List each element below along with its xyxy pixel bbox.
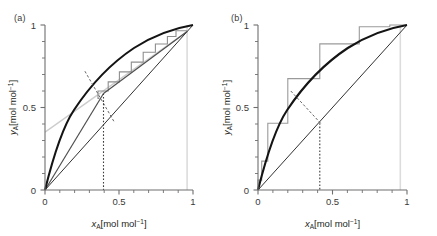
diagonal-45-line bbox=[258, 25, 407, 190]
panel-b: (b) bbox=[219, 0, 437, 236]
panel-b-xlabel-unit: [mol mol bbox=[314, 218, 350, 229]
panel-a-xlabel-unit: [mol mol bbox=[101, 218, 137, 229]
panel-b-ylabel-close: ] bbox=[221, 80, 232, 83]
panel-a-ylabel-close: ] bbox=[7, 80, 18, 83]
panel-a-x-axis-title: xA[mol mol−1] bbox=[90, 218, 146, 230]
figure-container: (a) bbox=[0, 0, 437, 236]
panel-b-xtick-05: 0.5 bbox=[326, 196, 339, 207]
panel-b-x-axis-title: xA[mol mol−1] bbox=[304, 218, 360, 230]
panel-b-y-axis-title: yA[mol mol−1] bbox=[221, 80, 233, 136]
panel-a-xtick-05: 0.5 bbox=[112, 196, 125, 207]
panel-a-ylabel-unit: [mol mol bbox=[7, 90, 18, 126]
y-axis-major-ticks bbox=[254, 25, 259, 190]
panel-b-ytick-1: 1 bbox=[244, 20, 249, 31]
panel-a-y-axis-title: yA[mol mol−1] bbox=[7, 80, 19, 136]
panel-b-plot: 0 0.5 1 0 0.5 1 xA[mol mol−1] yA[mol mol… bbox=[219, 0, 437, 236]
panel-b-xtick-1: 1 bbox=[404, 196, 409, 207]
y-axis-major-ticks bbox=[41, 25, 46, 190]
x-axis-major-ticks bbox=[258, 190, 407, 195]
panel-a-svg: 0 0.5 1 0 0.5 1 xA[mol mol−1] yA[mol mol… bbox=[0, 0, 218, 236]
panel-b-ylabel-unit: [mol mol bbox=[221, 90, 232, 126]
panel-b-ytick-05: 0.5 bbox=[236, 102, 249, 113]
diagonal-45-line bbox=[45, 25, 193, 190]
panel-a-xlabel-close: ] bbox=[144, 218, 147, 229]
panel-b-ytick-0: 0 bbox=[244, 185, 249, 196]
panel-b-xlabel-close: ] bbox=[357, 218, 360, 229]
panel-b-svg: 0 0.5 1 0 0.5 1 xA[mol mol−1] yA[mol mol… bbox=[219, 0, 437, 236]
panel-a: (a) bbox=[0, 0, 218, 236]
panel-a-ytick-0: 0 bbox=[31, 185, 36, 196]
panel-a-ytick-05: 0.5 bbox=[23, 102, 36, 113]
q-line bbox=[85, 71, 115, 122]
panel-a-plot: 0 0.5 1 0 0.5 1 xA[mol mol−1] yA[mol mol… bbox=[0, 0, 218, 236]
panel-a-ytick-1: 1 bbox=[31, 20, 36, 31]
panel-a-xtick-0: 0 bbox=[42, 196, 47, 207]
panel-b-xtick-0: 0 bbox=[255, 196, 260, 207]
q-line bbox=[291, 91, 321, 123]
x-axis-major-ticks bbox=[45, 190, 193, 195]
panel-a-xtick-1: 1 bbox=[190, 196, 195, 207]
